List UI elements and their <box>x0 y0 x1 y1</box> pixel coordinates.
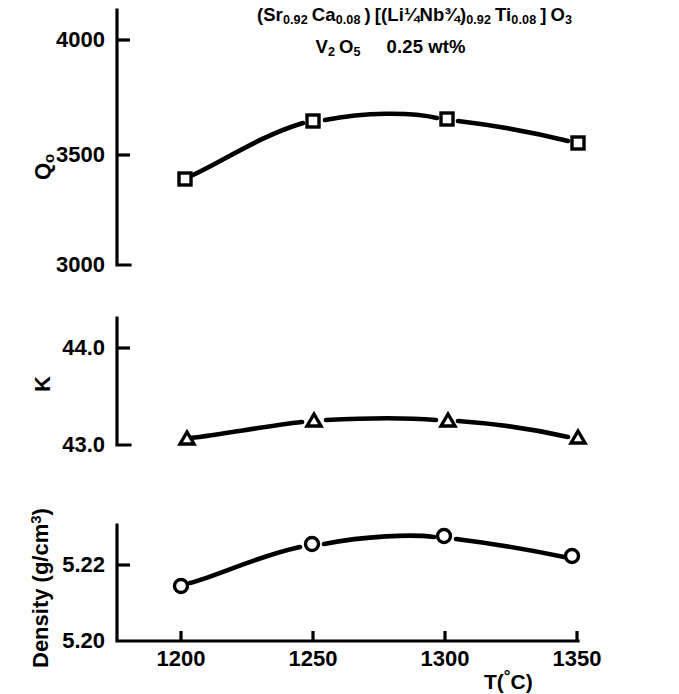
panel-density-curve-segment-2 <box>324 536 434 544</box>
panel-qo-y-spine <box>117 10 130 265</box>
panel-qo-curve-segment-3 <box>458 121 568 141</box>
x-axis-label-c: C) <box>511 670 533 693</box>
panel-k-curve-segment-3 <box>458 421 568 437</box>
xtick-label-1250: 1250 <box>263 646 363 672</box>
panel-density-marker-1200 <box>175 580 188 593</box>
panel-qo-curve-segment-1 <box>193 123 303 175</box>
panel-density-marker-1250 <box>306 538 319 551</box>
panel-qo-marker-1200 <box>179 173 191 185</box>
panel-density-marker-1350 <box>566 550 579 563</box>
panel-k-marker-1300 <box>441 414 455 426</box>
panel-density-curve-segment-1 <box>190 547 300 583</box>
panel-qo-marker-1250 <box>307 115 319 127</box>
panel-qo-marker-1300 <box>441 113 453 125</box>
x-axis-label-t: T( <box>484 670 504 693</box>
x-axis-label: T(°C) <box>484 670 533 694</box>
xtick-label-1200: 1200 <box>131 646 231 672</box>
panel-k-marker-1200 <box>180 432 194 444</box>
xtick-label-1350: 1350 <box>527 646 627 672</box>
panel-qo-marker-1350 <box>572 137 584 149</box>
xtick-label-1300: 1300 <box>395 646 495 672</box>
panel-k-plot <box>0 300 679 480</box>
panel-k-marker-1350 <box>571 431 585 443</box>
panel-qo-plot <box>0 0 679 300</box>
panel-k-marker-1250 <box>307 414 321 426</box>
figure-root: (Sr0.92Ca0.08)[(Li¼Nb¾)0.92Ti0.08]O3 V2O… <box>0 0 679 694</box>
x-axis-label-degree: ° <box>504 667 511 686</box>
panel-density-marker-1300 <box>438 530 451 543</box>
panel-k-curve-segment-2 <box>326 419 436 421</box>
panel-k-curve-segment-1 <box>190 422 302 438</box>
panel-density-curve-segment-3 <box>456 539 564 557</box>
panel-qo-curve-segment-2 <box>325 114 437 120</box>
panel-k-y-spine <box>117 318 130 445</box>
